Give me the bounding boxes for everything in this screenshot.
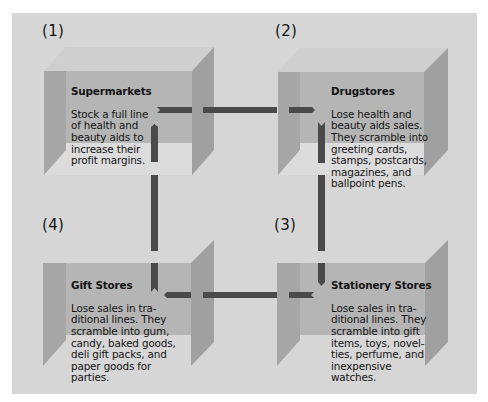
stage-2-body: Lose health and beauty aids sales. They … bbox=[331, 108, 428, 190]
stage-number-3: (3) bbox=[274, 216, 296, 234]
box-4-right-wall bbox=[191, 240, 214, 366]
box-1-top-face bbox=[44, 47, 214, 71]
stage-4-title: Gift Stores bbox=[71, 280, 176, 292]
arrow-4-to-1-mid-segment bbox=[151, 175, 158, 251]
stage-number-2: (2) bbox=[275, 22, 297, 40]
arrow-1-to-2-tail-segment bbox=[157, 107, 192, 113]
stage-4-body: Lose sales in tra- ditional lines. They … bbox=[71, 302, 176, 384]
stage-1-label: Supermarkets Stock a full line of health… bbox=[71, 74, 151, 167]
arrow-2-to-3-tail-segment bbox=[318, 122, 325, 163]
arrow-1-to-2-mid-segment bbox=[203, 107, 277, 113]
arrow-1-to-2-head-segment bbox=[289, 107, 315, 113]
diagram-stage: (1) (2) (3) (4) Supermarkets Stock a ful… bbox=[0, 0, 488, 402]
stage-3-label: Stationery Stores Lose sales in tra- dit… bbox=[331, 268, 431, 384]
arrow-3-to-4 bbox=[164, 292, 314, 298]
arrow-3-to-4-tail-segment bbox=[289, 292, 314, 298]
stage-2-title: Drugstores bbox=[331, 86, 428, 98]
stage-4-label: Gift Stores Lose sales in tra- ditional … bbox=[71, 268, 176, 384]
box-4-left-wall bbox=[43, 263, 66, 366]
arrow-4-to-1 bbox=[151, 124, 158, 292]
stage-1-body: Stock a full line of health and beauty a… bbox=[71, 108, 148, 166]
stage-3-body: Lose sales in tra- ditional lines. They … bbox=[331, 302, 426, 384]
stage-number-1: (1) bbox=[42, 22, 64, 40]
arrow-1-to-2 bbox=[157, 107, 315, 113]
box-2-top-face bbox=[278, 48, 448, 72]
arrow-4-to-1-head-segment bbox=[151, 124, 158, 162]
arrow-2-to-3-mid-segment bbox=[318, 175, 325, 251]
stage-1-title: Supermarkets bbox=[71, 86, 151, 98]
arrow-2-to-3-head-segment bbox=[318, 263, 325, 286]
arrow-2-to-3 bbox=[318, 122, 325, 286]
stage-3-title: Stationery Stores bbox=[331, 280, 431, 292]
arrow-3-to-4-mid-segment bbox=[203, 292, 277, 298]
stage-2-label: Drugstores Lose health and beauty aids s… bbox=[331, 74, 428, 190]
box-3-left-wall bbox=[277, 263, 300, 366]
stage-number-4: (4) bbox=[42, 216, 64, 234]
